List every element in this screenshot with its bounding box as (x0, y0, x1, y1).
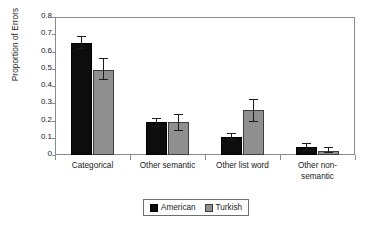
error-bar-turkish-1 (174, 114, 183, 131)
error-bar-cap-top (99, 58, 108, 59)
error-bar-cap-bottom (77, 48, 86, 49)
error-bar-american-2 (227, 133, 236, 140)
y-axis-title: Proportion of Errors (11, 0, 20, 100)
legend: AmericanTurkish (143, 199, 249, 216)
y-axis-tick-label: 0.7 (41, 28, 52, 37)
error-bar-turkish-0 (99, 58, 108, 80)
bar-chart: Proportion of Errors 00.10.20.30.40.50.6… (0, 0, 368, 231)
error-bar-cap-top (77, 36, 86, 37)
x-axis-label-2: Other list word (205, 161, 280, 172)
x-axis-tick-mark (355, 155, 356, 160)
x-axis-label-3: Other non-semantic (280, 161, 355, 182)
y-axis-tick-label: 0 (48, 149, 52, 158)
error-bar-turkish-2 (249, 99, 258, 122)
bar-turkish-0 (93, 70, 114, 155)
y-axis-tick-label: 0.5 (41, 63, 52, 72)
x-axis-label-0: Categorical (55, 161, 130, 172)
error-bar-cap-bottom (227, 139, 236, 140)
error-bar-cap-top (324, 147, 333, 148)
x-axis-tick-mark (130, 155, 131, 160)
y-axis-tick-label: 0.8 (41, 11, 52, 20)
error-bar-cap-bottom (99, 79, 108, 80)
x-axis-label-line: Categorical (55, 161, 130, 172)
legend-swatch-turkish-icon (205, 204, 213, 212)
x-axis-tick-mark (55, 155, 56, 160)
error-bar-cap-bottom (302, 150, 311, 151)
y-axis-tick-label: 0.2 (41, 115, 52, 124)
y-axis-tick-label: 0.3 (41, 97, 52, 106)
error-bar-cap-top (249, 99, 258, 100)
bar-american-1 (146, 122, 167, 155)
error-bar-cap-top (227, 133, 236, 134)
error-bar-cap-bottom (249, 121, 258, 122)
error-bar-cap-bottom (324, 152, 333, 153)
y-axis-tick-label: 0.4 (41, 80, 52, 89)
legend-label: American (161, 203, 196, 212)
x-axis-label-1: Other semantic (130, 161, 205, 172)
x-axis-tick-mark (280, 155, 281, 160)
error-bar-cap-bottom (152, 126, 161, 127)
error-bar-stem (253, 99, 254, 122)
x-axis-label-line: Other non- (280, 161, 355, 172)
x-axis-label-line: semantic (280, 172, 355, 183)
legend-label: Turkish (216, 203, 243, 212)
y-axis-tick-label: 0.1 (41, 132, 52, 141)
x-axis-label-line: Other semantic (130, 161, 205, 172)
error-bar-cap-top (302, 143, 311, 144)
error-bar-cap-top (152, 118, 161, 119)
x-axis-tick-mark (205, 155, 206, 160)
legend-swatch-american-icon (150, 204, 158, 212)
error-bar-turkish-3 (324, 147, 333, 153)
error-bar-american-1 (152, 118, 161, 127)
error-bar-cap-top (174, 114, 183, 115)
error-bar-american-0 (77, 36, 86, 49)
error-bar-stem (103, 58, 104, 80)
x-axis-label-line: Other list word (205, 161, 280, 172)
legend-entry-turkish: Turkish (205, 203, 243, 212)
error-bar-american-3 (302, 143, 311, 151)
y-axis-tick-label: 0.6 (41, 46, 52, 55)
error-bar-stem (178, 114, 179, 131)
error-bar-cap-bottom (174, 130, 183, 131)
legend-entry-american: American (150, 203, 196, 212)
bar-american-0 (71, 43, 92, 155)
